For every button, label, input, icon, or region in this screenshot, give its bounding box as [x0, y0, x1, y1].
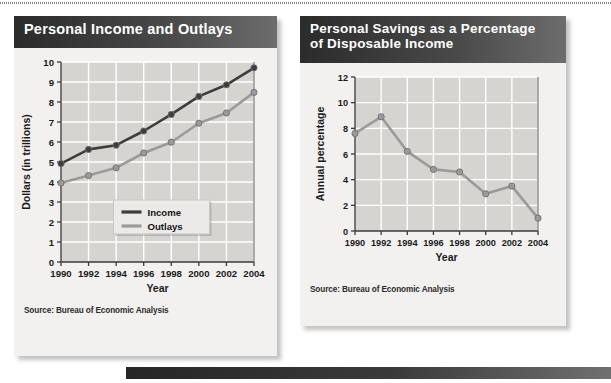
data-point	[430, 166, 436, 172]
x-tick-label: 1998	[161, 268, 183, 279]
data-point	[58, 161, 64, 167]
x-tick-label: 2002	[216, 268, 237, 279]
data-point	[509, 183, 515, 189]
data-point	[352, 130, 358, 136]
x-tick-label: 1992	[371, 238, 391, 248]
y-tick-label: 12	[338, 73, 348, 83]
x-tick-label: 1990	[345, 238, 365, 248]
x-tick-label: 1990	[50, 268, 71, 279]
y-tick-label: 7	[49, 117, 54, 128]
y-tick-label: 1	[49, 237, 55, 248]
x-tick-label: 1996	[133, 268, 154, 279]
data-point	[168, 111, 174, 117]
data-point	[196, 93, 202, 99]
y-tick-label: 0	[343, 227, 348, 237]
y-tick-label: 5	[49, 157, 55, 168]
plot-area-savings: 0246810121990199219941996199820002002200…	[300, 63, 566, 318]
data-point	[58, 180, 64, 186]
y-tick-label: 3	[49, 197, 54, 208]
source-note-income: Source: Bureau of Economic Analysis	[24, 306, 169, 315]
chart-panel-savings: Personal Savings as a Percentage of Disp…	[300, 16, 566, 326]
y-tick-label: 8	[343, 124, 348, 134]
chart-legend: IncomeOutlays	[114, 200, 212, 236]
data-point	[113, 142, 119, 148]
data-point	[85, 146, 91, 152]
x-tick-label: 1994	[105, 268, 127, 279]
bottom-accent-bar	[126, 367, 611, 379]
data-point	[141, 150, 147, 156]
y-tick-label: 2	[343, 201, 348, 211]
data-point	[168, 139, 174, 145]
data-point	[483, 191, 489, 197]
y-tick-label: 2	[49, 217, 54, 228]
top-divider-rule	[0, 2, 611, 4]
data-point	[251, 89, 257, 95]
y-tick-label: 4	[49, 177, 55, 188]
y-tick-label: 6	[343, 150, 348, 160]
panel-title-savings: Personal Savings as a Percentage of Disp…	[300, 16, 566, 63]
legend-label: Income	[148, 207, 182, 218]
x-tick-label: 2002	[502, 238, 522, 248]
y-tick-label: 9	[49, 77, 54, 88]
x-tick-label: 2000	[188, 268, 209, 279]
data-point	[85, 173, 91, 179]
x-axis-title: Year	[146, 282, 168, 294]
x-tick-label: 1996	[423, 238, 443, 248]
data-point	[251, 65, 257, 71]
data-point	[535, 215, 541, 221]
data-point	[113, 165, 119, 171]
y-axis-title: Annual percentage	[314, 107, 326, 202]
y-tick-label: 8	[49, 97, 55, 108]
y-tick-label: 6	[49, 137, 54, 148]
y-axis-title: Dollars (in trillions)	[20, 114, 32, 210]
data-point	[404, 148, 410, 154]
line-chart-income: 0123456789101990199219941996199820002002…	[14, 48, 277, 348]
x-tick-label: 1994	[397, 238, 418, 248]
x-axis-title: Year	[435, 251, 457, 263]
source-note-savings: Source: Bureau of Economic Analysis	[310, 285, 455, 294]
y-tick-label: 4	[343, 175, 349, 185]
line-chart-savings: 0246810121990199219941996199820002002200…	[300, 63, 566, 318]
x-tick-label: 1992	[78, 268, 99, 279]
data-point	[456, 169, 462, 175]
data-point	[196, 120, 202, 126]
x-tick-label: 2004	[243, 268, 265, 279]
y-tick-label: 0	[49, 257, 54, 268]
data-point	[378, 114, 384, 120]
y-tick-label: 10	[338, 98, 348, 108]
data-point	[223, 82, 229, 88]
panel-title-income: Personal Income and Outlays	[14, 16, 277, 48]
data-point	[223, 110, 229, 116]
chart-panel-income: Personal Income and Outlays 012345678910…	[14, 16, 277, 356]
plot-area-income: 0123456789101990199219941996199820002002…	[14, 48, 277, 348]
x-tick-label: 2000	[475, 238, 495, 248]
legend-label: Outlays	[148, 221, 183, 232]
panel-title-savings-line1: Personal Savings as a Percentage	[310, 21, 556, 36]
data-point	[141, 128, 147, 134]
x-tick-label: 1998	[449, 238, 469, 248]
panel-title-savings-line2: of Disposable Income	[310, 36, 556, 51]
x-tick-label: 2004	[528, 238, 549, 248]
y-tick-label: 10	[43, 57, 54, 68]
